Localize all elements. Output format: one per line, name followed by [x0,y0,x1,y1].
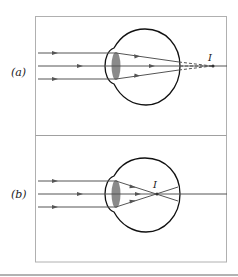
arrow-icon [134,54,140,58]
focus-point-b [156,193,159,196]
panel-a: (a) I [11,29,227,105]
focus-label-b: I [152,179,158,190]
focus-label-a: I [207,52,213,63]
arrow-icon [52,205,58,209]
ray-bot-refracted [116,70,179,79]
arrow-icon [149,64,155,68]
arrow-icon [52,51,58,55]
ray-top-refracted [116,53,179,62]
ray-bot-virtual [179,66,212,70]
arrow-icon [52,77,58,81]
ray-top-refracted [116,181,178,201]
arrow-icon [77,192,83,196]
ray-bot-refracted [116,187,178,207]
arrow-icon [77,64,83,68]
arrow-icon [134,74,140,78]
eye-focus-diagram: (a) I (b) [0,0,238,277]
panel-b-label: (b) [11,188,27,201]
panel-a-label: (a) [11,66,26,79]
arrow-icon [52,179,58,183]
arrow-icon [135,192,141,196]
focus-point-a [212,65,215,68]
panel-b: (b) I [11,158,227,232]
